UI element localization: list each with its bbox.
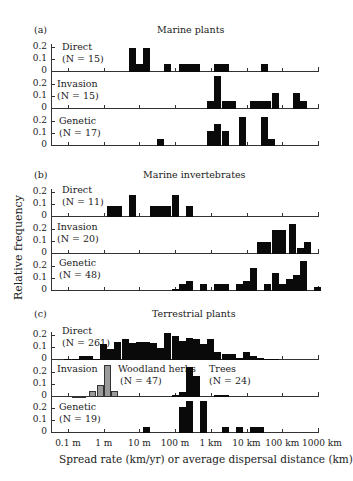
- x-tick-label: 10 m: [128, 438, 151, 448]
- histogram-bar: [186, 401, 193, 433]
- histogram-bar: [207, 101, 214, 110]
- histogram-bar: [200, 344, 207, 360]
- x-tick: [318, 355, 319, 359]
- histogram-bar: [143, 342, 150, 360]
- histogram-bar: [289, 224, 296, 255]
- y-tick: [51, 59, 55, 60]
- y-tick-label: 0: [27, 65, 47, 75]
- x-tick: [247, 213, 248, 217]
- x-tick: [139, 429, 140, 433]
- panel-c-title: Terrestrial plants: [152, 308, 236, 319]
- histogram-bar: [172, 336, 179, 360]
- histogram-bar: [250, 427, 264, 433]
- x-tick: [211, 250, 212, 254]
- x-tick: [318, 249, 319, 253]
- y-tick: [51, 347, 55, 348]
- histogram-bar: [222, 101, 236, 110]
- histogram-bar: [214, 395, 228, 397]
- x-tick: [68, 68, 69, 72]
- x-tick: [211, 213, 212, 217]
- histogram-bar: [107, 349, 114, 360]
- series-label-a-direct: Direct(N = 15): [62, 41, 104, 65]
- y-tick-label: 0: [27, 210, 47, 220]
- histogram-bar: [172, 395, 179, 397]
- x-tick: [247, 142, 248, 146]
- series-label-a-invasion: Invasion(N = 15): [57, 78, 99, 102]
- histogram-bar: [186, 206, 193, 217]
- panel-a-title: Marine plants: [157, 24, 224, 35]
- histogram-bar: [293, 93, 300, 109]
- y-tick: [51, 229, 55, 230]
- histogram-bar: [89, 391, 96, 397]
- y-tick-label: 0.1: [27, 272, 47, 282]
- histogram-bar: [272, 230, 286, 254]
- histogram-bar: [272, 93, 279, 109]
- histogram-bar: [136, 342, 143, 360]
- histogram-bar: [111, 391, 118, 397]
- x-tick: [282, 429, 283, 433]
- x-axis-baseline: [51, 145, 318, 146]
- histogram-bar: [104, 365, 111, 397]
- x-tick: [211, 68, 212, 72]
- x-tick: [104, 213, 105, 217]
- y-tick-label: 0: [27, 247, 47, 257]
- histogram-bar: [164, 64, 171, 73]
- x-tick: [139, 287, 140, 291]
- y-tick-label: 0.1: [27, 127, 47, 137]
- y-tick-label: 0.2: [27, 366, 47, 376]
- histogram-bar: [129, 48, 136, 72]
- series-label-a-genetic: Genetic(N = 17): [59, 115, 101, 139]
- series-label-c-invasion: Invasion: [57, 363, 98, 375]
- histogram-bar: [239, 117, 246, 146]
- histogram-bar: [143, 427, 150, 433]
- x-tick: [211, 393, 212, 397]
- x-tick: [318, 141, 319, 145]
- histogram-bar: [72, 359, 79, 360]
- y-tick: [51, 372, 55, 373]
- x-tick: [139, 393, 140, 397]
- x-tick: [104, 68, 105, 72]
- histogram-bar: [222, 131, 229, 146]
- histogram-bar: [272, 273, 279, 291]
- x-tick: [318, 212, 319, 216]
- histogram-bar: [186, 338, 193, 360]
- histogram-bar: [86, 356, 93, 360]
- histogram-bar: [279, 284, 286, 291]
- histogram-bar: [300, 101, 307, 110]
- histogram-bar: [72, 396, 86, 398]
- histogram-bar: [297, 248, 304, 254]
- y-tick-label: 0.1: [27, 378, 47, 388]
- x-tick: [175, 250, 176, 254]
- histogram-bar: [93, 359, 100, 360]
- y-tick-label: 0.2: [27, 78, 47, 88]
- histogram-bar: [107, 206, 121, 217]
- y-tick-label: 0.2: [27, 186, 47, 196]
- y-tick-label: 0.1: [27, 90, 47, 100]
- histogram-bar: [179, 284, 186, 291]
- histogram-bar: [179, 392, 186, 397]
- histogram-bar: [150, 343, 157, 360]
- y-tick: [51, 204, 55, 205]
- x-tick-label: 1 km: [200, 438, 223, 448]
- x-tick: [104, 105, 105, 109]
- histogram-bar: [100, 344, 107, 360]
- x-tick: [104, 250, 105, 254]
- y-tick: [51, 121, 55, 122]
- x-tick: [282, 356, 283, 360]
- histogram-bar: [268, 139, 275, 146]
- x-tick-label: 10 km: [232, 438, 260, 448]
- y-tick: [51, 192, 55, 193]
- x-tick: [68, 250, 69, 254]
- x-tick: [282, 213, 283, 217]
- histogram-bar: [236, 358, 243, 360]
- histogram-bar: [250, 101, 271, 110]
- y-tick-label: 0: [27, 426, 47, 436]
- y-tick-label: 0.1: [27, 341, 47, 351]
- y-tick: [51, 47, 55, 48]
- x-axis-baseline: [51, 216, 318, 217]
- histogram-bar: [97, 385, 104, 397]
- x-tick: [282, 142, 283, 146]
- y-tick: [51, 384, 55, 385]
- x-tick-label: 1000 km: [302, 438, 342, 448]
- x-tick: [104, 287, 105, 291]
